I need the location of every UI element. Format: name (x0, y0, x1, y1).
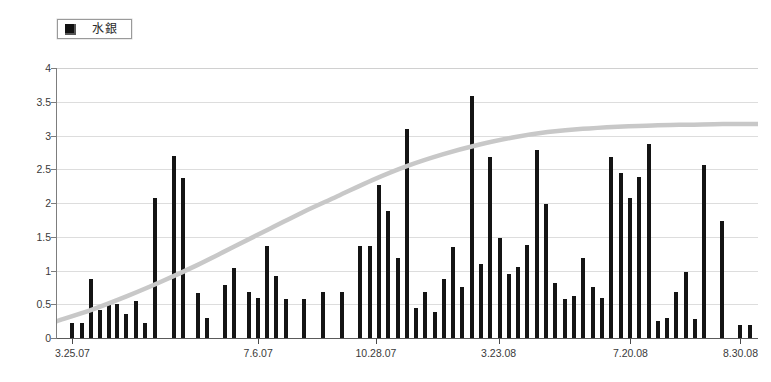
x-tick-label: 3.23.08 (481, 348, 516, 359)
bar (479, 264, 483, 338)
bar (340, 292, 344, 338)
bar (172, 156, 176, 338)
bar (451, 247, 455, 338)
bar (553, 283, 557, 338)
bar (414, 308, 418, 338)
legend-label: 水銀 (92, 23, 117, 35)
y-axis-labels: 00.511.522.533.54 (0, 0, 51, 382)
bar (423, 292, 427, 338)
bar (223, 285, 227, 338)
bar (516, 267, 520, 338)
x-tick-mark (258, 338, 259, 344)
x-tick-label: 7.6.07 (244, 348, 273, 359)
bar (609, 157, 613, 338)
bar (265, 246, 269, 338)
bar (600, 298, 604, 339)
x-tick-mark (499, 338, 500, 344)
bar (124, 314, 128, 338)
y-tick-label: 1.5 (36, 232, 51, 243)
bar (460, 287, 464, 338)
x-tick-label: 3.25.07 (55, 348, 90, 359)
bar (544, 204, 548, 338)
bar (637, 177, 641, 338)
y-tick-label: 2.5 (36, 164, 51, 175)
bar (89, 279, 93, 338)
bar (107, 304, 111, 338)
y-tick-mark (51, 271, 56, 272)
bar (386, 211, 390, 338)
bar (628, 198, 632, 338)
y-tick-mark (51, 338, 56, 339)
bar (665, 318, 669, 338)
x-tick-mark (630, 338, 631, 344)
bar (684, 272, 688, 338)
y-tick-mark (51, 169, 56, 170)
y-tick-mark (51, 68, 56, 69)
bar (619, 173, 623, 338)
bar (572, 296, 576, 338)
bar (377, 185, 381, 338)
bar (274, 276, 278, 338)
bar (581, 258, 585, 338)
bar (321, 292, 325, 338)
bar (656, 321, 660, 338)
bar-series (57, 68, 758, 338)
bar (748, 325, 752, 339)
bar (720, 221, 724, 338)
bar (507, 274, 511, 338)
bar (405, 129, 409, 338)
bar (181, 178, 185, 338)
bar (284, 299, 288, 338)
bar (442, 279, 446, 338)
y-tick-mark (51, 237, 56, 238)
x-tick-mark (740, 338, 741, 344)
x-tick-label: 8.30.08 (723, 348, 758, 359)
bar (396, 258, 400, 338)
bar (70, 323, 74, 338)
plot-area (57, 68, 758, 338)
x-tick-label: 10.28.07 (356, 348, 397, 359)
bar (205, 318, 209, 338)
y-tick-mark (51, 304, 56, 305)
x-tick-label: 7.20.08 (613, 348, 648, 359)
y-tick-mark (51, 102, 56, 103)
bar (115, 304, 119, 338)
bar (647, 144, 651, 338)
bar (143, 323, 147, 338)
y-tick-label: 0.5 (36, 299, 51, 310)
bar (433, 312, 437, 338)
bar (674, 292, 678, 338)
bar (535, 150, 539, 338)
bar (563, 299, 567, 338)
filled-square-icon (65, 24, 76, 35)
chart-legend: 水銀 (57, 19, 132, 39)
y-tick-label: 3.5 (36, 97, 51, 108)
bar (488, 157, 492, 338)
bar (256, 298, 260, 339)
bar (470, 96, 474, 338)
bar (302, 299, 306, 338)
bar (98, 310, 102, 338)
bar (368, 246, 372, 338)
bar (591, 287, 595, 338)
bar (232, 268, 236, 338)
bar (153, 198, 157, 338)
bar (738, 325, 742, 339)
bar (358, 246, 362, 338)
x-tick-mark (376, 338, 377, 344)
x-axis-line (57, 338, 758, 339)
x-tick-mark (72, 338, 73, 344)
bar (196, 293, 200, 338)
bar (247, 292, 251, 338)
y-tick-mark (51, 203, 56, 204)
bar (498, 238, 502, 338)
bar (525, 245, 529, 338)
bar (693, 319, 697, 338)
bar (702, 165, 706, 338)
mercury-bar-chart: 水銀 00.511.522.533.54 3.25.077.6.0710.28.… (0, 0, 771, 382)
bar (80, 323, 84, 338)
bar (134, 301, 138, 338)
y-tick-mark (51, 136, 56, 137)
